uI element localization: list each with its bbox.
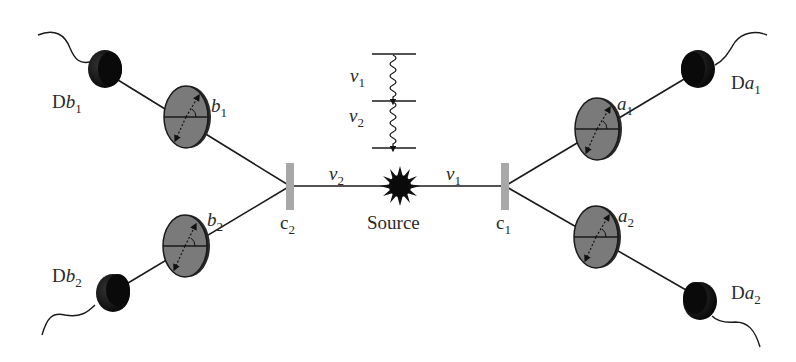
source-starburst-icon: [380, 166, 420, 206]
diagram-canvas: ν1 ν2 ν2 ν1 Source c2 c1 b1 b2 a1 a2 Db1…: [0, 0, 796, 362]
label-photon-nu1: ν1: [446, 164, 461, 183]
label-b1: b1: [211, 96, 227, 115]
label-db1: Db1: [52, 92, 82, 111]
detector-db1-icon: [38, 32, 122, 88]
polarizer-b1-icon: [164, 86, 211, 148]
label-nu2-energy: ν2: [349, 106, 364, 125]
label-source: Source: [367, 213, 420, 232]
label-da1: Da1: [731, 73, 761, 92]
diagram-graphics: [0, 0, 796, 362]
label-db2: Db2: [52, 266, 82, 285]
label-a2: a2: [618, 206, 634, 225]
label-photon-nu2: ν2: [329, 164, 344, 183]
label-nu1-energy: ν1: [350, 66, 365, 85]
polarizer-b2-icon: [163, 215, 210, 277]
polarizer-a1-icon: [575, 98, 622, 160]
label-c2: c2: [280, 213, 295, 232]
label-c1: c1: [496, 213, 511, 232]
polarizer-a2-icon: [574, 206, 621, 268]
label-da2: Da2: [731, 283, 761, 302]
energy-level-diagram: [372, 54, 416, 149]
label-b2: b2: [207, 210, 223, 229]
label-a1: a1: [617, 94, 633, 113]
beam-splitter-c1: [501, 163, 509, 210]
beam-splitter-c2: [286, 163, 294, 210]
